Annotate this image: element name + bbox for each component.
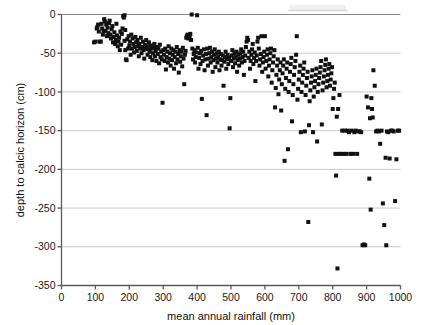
data-point [382,223,386,227]
data-point [253,79,257,83]
data-point [304,84,308,88]
data-point [300,90,304,94]
data-point [366,105,370,109]
data-point [336,107,340,111]
data-point [200,97,204,101]
data-point [351,152,355,156]
data-point [251,42,255,46]
data-point [365,95,369,99]
y-axis-tick-label: -300 [34,240,55,252]
data-point [193,61,197,65]
data-point [332,87,336,91]
data-point [308,99,312,103]
data-point [211,70,215,74]
data-point [328,84,332,88]
data-point [359,130,363,134]
data-point [274,73,278,77]
data-point [330,65,334,69]
data-point [118,48,122,52]
data-point [310,74,314,78]
data-point [182,57,186,61]
data-point [397,129,401,133]
data-point [331,96,335,100]
data-point [246,38,250,42]
x-axis-tick-label: 1000 [389,291,413,303]
data-point [119,43,123,47]
plot-canvas: 0-50-100-150-200-250-300-350010020030040… [0,0,426,325]
data-point [392,129,396,133]
data-point [172,67,176,71]
data-point [367,177,371,181]
data-point [93,40,97,44]
data-point [276,92,280,96]
data-point [241,50,245,54]
data-point [369,96,373,100]
data-point [222,84,226,88]
data-point [295,34,299,38]
data-point [299,130,303,134]
data-point [277,78,281,82]
data-point [291,93,295,97]
data-point [303,129,307,133]
data-point [311,130,315,134]
data-point [290,119,294,123]
data-point [228,126,232,130]
data-point [393,199,397,203]
data-point [224,67,228,71]
data-point [305,76,309,80]
data-point [306,220,310,224]
data-point [289,56,293,60]
data-point [344,152,348,156]
data-point [292,73,296,77]
data-point [316,90,320,94]
data-point [139,36,143,40]
data-point [255,54,259,58]
data-point [188,32,192,36]
data-point [320,122,324,126]
data-point [213,47,217,51]
data-point [323,63,327,67]
x-axis-tick-label: 900 [358,291,376,303]
data-point [123,28,127,32]
data-point [329,78,333,82]
data-point [142,57,146,61]
data-point [129,33,133,37]
x-axis-tick-label: 400 [188,291,206,303]
x-axis-tick-label: 300 [154,291,172,303]
data-point [335,266,339,270]
data-point [321,81,325,85]
data-point [323,68,327,72]
data-point [125,58,129,62]
data-point [195,13,199,17]
data-point [244,45,248,49]
scatter-plot-figure: 0-50-100-150-200-250-300-350010020030040… [0,0,426,325]
data-point [302,61,306,65]
data-point [280,82,284,86]
data-point [203,68,207,72]
data-point [164,67,168,71]
data-point [369,208,373,212]
data-point [384,156,388,160]
x-axis-tick-label: 800 [324,291,342,303]
data-point [161,101,165,105]
data-point [267,64,271,68]
data-point [158,43,162,47]
x-axis-tick-label: 500 [222,291,240,303]
data-point [309,81,313,85]
data-point [334,174,338,178]
data-point [174,61,178,65]
data-point [321,88,325,92]
x-axis-title: mean annual rainfall (mm) [167,310,295,322]
data-point [388,157,392,161]
y-axis-tick-label: -50 [40,47,55,59]
data-point [301,73,305,77]
data-point [381,201,385,205]
data-point [123,13,127,17]
data-point [300,81,304,85]
data-point [180,64,184,68]
data-point [257,47,261,51]
data-point [355,152,359,156]
data-point [255,40,259,44]
data-point [293,59,297,63]
data-point [287,90,291,94]
